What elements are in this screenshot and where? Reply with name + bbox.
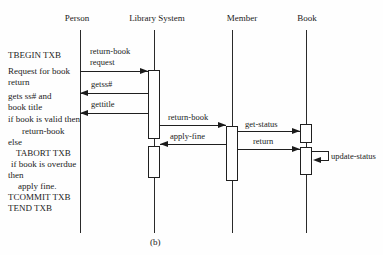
activation-book-4 [300,147,312,175]
pseudocode-line-1: Request for book [8,66,70,77]
message-arrowhead-getss [80,90,88,96]
message-label-get-status: get-status [245,119,278,130]
self-message-top-update-status [312,151,328,152]
pseudocode-line-10: then [8,170,24,181]
actor-label-person: Person [65,13,90,23]
activation-book-3 [300,124,312,143]
self-message-side-update-status [328,151,329,160]
message-arrowhead-request [140,68,148,74]
message-line-request [80,71,148,72]
message-label-return: return [253,136,273,147]
pseudocode-line-4: book title [8,102,42,113]
message-label-gettitle: gettitle [91,99,115,110]
message-line-getss [80,93,148,94]
pseudocode-line-6: return-book [22,126,65,137]
actor-label-book: Book [297,13,317,23]
self-message-arrowhead-update-status [313,157,321,163]
activation-library-system-0 [148,70,160,139]
figure-caption: (b) [150,237,161,247]
message-line-return [238,149,300,150]
lifeline-person [80,30,81,233]
message-arrowhead-return-book [218,122,226,128]
message-arrowhead-apply-fine [160,141,168,147]
pseudocode-line-9: if book is overdue [11,159,76,170]
message-label-return-book: return-book [168,112,208,123]
pseudocode-line-13: TEND TXB [8,203,52,214]
message-label-apply-fine: apply-fine [170,131,205,142]
pseudocode-line-5: if book is valid then [8,114,80,125]
pseudocode-line-12: TCOMMIT TXB [8,192,70,203]
pseudocode-line-2: return [8,77,30,88]
sequence-diagram: (b) PersonLibrary SystemMemberBookreturn… [0,0,383,255]
self-message-label-update-status: update-status [331,151,376,162]
activation-member-2 [226,126,238,181]
message-label-getss: getss# [91,79,112,90]
actor-label-library-system: Library System [129,13,185,23]
message-arrowhead-gettitle [80,110,88,116]
message-line-apply-fine [160,144,226,145]
message-line-return-book [160,125,226,126]
pseudocode-line-0: TBEGIN TXB [8,50,61,61]
message-line-gettitle [80,113,148,114]
activation-library-system-1 [148,146,160,178]
message-line-get-status [238,131,300,132]
message-arrowhead-get-status [292,128,300,134]
pseudocode-line-11: apply fine. [18,181,57,192]
message-arrowhead-return [292,146,300,152]
pseudocode-line-8: TABORT TXB [16,148,71,159]
pseudocode-line-3: gets ss# and [8,91,52,102]
message-label-request: return-book request [90,46,130,68]
actor-label-member: Member [227,13,258,23]
pseudocode-line-7: else [8,137,22,148]
